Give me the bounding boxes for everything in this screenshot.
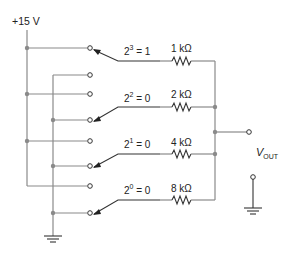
resistor-4k-label: 4 kΩ (171, 138, 192, 148)
bit2-label: 22 = 0 (124, 92, 150, 104)
resistor-8k-label: 8 kΩ (171, 184, 192, 194)
output-ground-terminal (251, 175, 256, 180)
output-ground-icon (244, 208, 262, 214)
bit1-label: 21 = 0 (124, 138, 150, 150)
dac-circuit-diagram (0, 0, 291, 261)
vout-label: VOUT (256, 146, 278, 160)
resistor-2k-label: 2 kΩ (171, 90, 192, 100)
bit0-label: 20 = 0 (124, 184, 150, 196)
output-terminal (247, 130, 252, 135)
supply-label: +15 V (12, 16, 40, 27)
ground-icon (44, 236, 62, 242)
resistor-1k-label: 1 kΩ (171, 44, 192, 54)
resistors (160, 57, 215, 204)
bit3-label: 23 = 1 (124, 45, 150, 57)
switch-contacts (88, 46, 93, 216)
